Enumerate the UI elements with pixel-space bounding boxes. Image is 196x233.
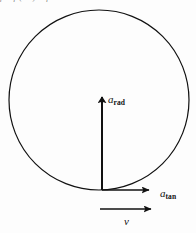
radial-acceleration-label: arad <box>108 90 125 107</box>
tangential-acceleration-label: atan <box>160 184 176 201</box>
velocity-label: v <box>124 212 129 228</box>
physics-figure: f v f ( r ) r f arad atan v <box>0 0 196 233</box>
velocity-symbol: v <box>124 215 129 227</box>
tangential-acceleration-subscript: tan <box>166 192 177 201</box>
circular-path <box>9 10 189 190</box>
radial-acceleration-subscript: rad <box>114 98 126 107</box>
